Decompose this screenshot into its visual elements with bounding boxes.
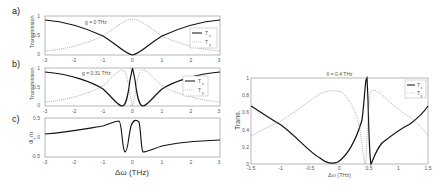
panel-c-axes <box>45 118 220 157</box>
svg-text:x: x <box>209 34 211 38</box>
panel-a-annotation: g = 0 THz <box>85 19 107 25</box>
panel-right-ty-curve <box>251 90 428 164</box>
panel-a: a) Transmission 0 0.5 1 -3 -2 -1 0 1 2 3… <box>12 6 221 63</box>
panel-a-legend: T x T y <box>190 28 217 48</box>
svg-text:/π: /π <box>28 131 34 137</box>
panel-c-xticks: -3 -2 -1 0 1 2 3 <box>43 159 221 165</box>
svg-text:-1.5: -1.5 <box>247 165 256 171</box>
svg-text:0.5: 0.5 <box>33 84 40 90</box>
svg-text:1: 1 <box>397 165 400 171</box>
svg-text:-2: -2 <box>72 57 77 63</box>
panel-a-xticks: -3 -2 -1 0 1 2 3 <box>43 57 221 63</box>
svg-text:1: 1 <box>161 159 164 165</box>
svg-text:0: 0 <box>131 57 134 63</box>
svg-text:-2: -2 <box>72 159 77 165</box>
svg-text:x: x <box>202 82 204 86</box>
panel-right-xlabel: Δω (THz) <box>328 172 351 178</box>
svg-text:2: 2 <box>190 159 193 165</box>
svg-text:0.5: 0.5 <box>366 165 373 171</box>
svg-text:-1: -1 <box>278 165 283 171</box>
svg-text:0.6: 0.6 <box>242 109 249 115</box>
svg-text:0: 0 <box>37 51 40 57</box>
panel-b-legend: T x T y <box>183 76 208 96</box>
svg-text:1: 1 <box>246 75 249 81</box>
panel-right-xticks: -1.5 -1 -0.5 0 0.5 1 1.5 <box>247 165 432 171</box>
figure: a) Transmission 0 0.5 1 -3 -2 -1 0 1 2 3… <box>0 0 446 185</box>
svg-text:1.5: 1.5 <box>425 165 432 171</box>
svg-text:0: 0 <box>37 102 40 108</box>
svg-text:-1: -1 <box>101 57 106 63</box>
panel-b: b) Transmission 0 0.5 1 -3 -2 -1 0 1 2 3… <box>12 59 221 114</box>
svg-text:-3: -3 <box>43 57 48 63</box>
svg-text:-1: -1 <box>101 108 106 114</box>
svg-text:1: 1 <box>37 65 40 71</box>
svg-text:y: y <box>421 94 423 98</box>
svg-text:T: T <box>198 78 201 84</box>
svg-text:T: T <box>205 39 208 45</box>
panel-b-annotation: g = 0.31 THz <box>82 70 111 76</box>
panel-c: c) Φ y /π -0.5 0 0.5 -3 -2 -1 0 1 2 3 Δω… <box>12 114 221 177</box>
svg-text:T: T <box>198 87 201 93</box>
svg-text:3: 3 <box>218 57 221 63</box>
svg-text:0.5: 0.5 <box>33 115 40 121</box>
panel-c-phase-curve <box>45 120 220 152</box>
svg-text:-1: -1 <box>101 159 106 165</box>
svg-text:1: 1 <box>161 57 164 63</box>
svg-text:y: y <box>202 91 204 95</box>
svg-text:x: x <box>421 86 423 90</box>
panel-a-label: a) <box>12 6 20 16</box>
svg-text:3: 3 <box>218 159 221 165</box>
svg-text:2: 2 <box>190 57 193 63</box>
svg-text:0: 0 <box>131 108 134 114</box>
panel-b-label: b) <box>12 59 20 69</box>
panel-right-title: δ = 0.4 THz <box>327 71 353 77</box>
svg-text:T: T <box>205 30 208 36</box>
panel-c-ylabel: Φ y /π <box>28 131 36 144</box>
panel-right-legend: T x T y <box>405 80 426 98</box>
panel-right-ylabel: Trans. <box>234 110 241 130</box>
svg-text:0.4: 0.4 <box>242 127 249 133</box>
svg-text:2: 2 <box>190 108 193 114</box>
svg-text:-0.5: -0.5 <box>306 165 315 171</box>
svg-text:0: 0 <box>131 159 134 165</box>
svg-text:-0.5: -0.5 <box>31 153 40 159</box>
panel-c-xlabel: Δω (THz) <box>115 168 149 177</box>
svg-text:0.5: 0.5 <box>33 32 40 38</box>
panel-b-xticks: -3 -2 -1 0 1 2 3 <box>43 108 221 114</box>
svg-text:y: y <box>209 43 211 47</box>
svg-text:0: 0 <box>37 134 40 140</box>
svg-text:-3: -3 <box>43 159 48 165</box>
panel-right-tx-curve <box>251 78 428 164</box>
svg-text:3: 3 <box>218 108 221 114</box>
svg-text:0.8: 0.8 <box>242 92 249 98</box>
svg-text:1: 1 <box>37 13 40 19</box>
svg-text:-2: -2 <box>72 108 77 114</box>
svg-text:-3: -3 <box>43 108 48 114</box>
panel-right-axes <box>251 78 428 164</box>
panel-c-label: c) <box>12 114 20 124</box>
panel-right-yticks: 0 0.2 0.4 0.6 0.8 1 <box>242 75 249 167</box>
svg-text:1: 1 <box>161 108 164 114</box>
svg-text:0: 0 <box>338 165 341 171</box>
panel-right: Trans. δ = 0.4 THz 0 0.2 0.4 0.6 0.8 1 -… <box>234 71 432 178</box>
svg-text:0.2: 0.2 <box>242 144 249 150</box>
